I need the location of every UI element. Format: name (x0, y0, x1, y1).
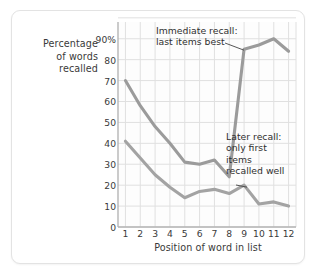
later-recall-annotation: Later recall: only first items recalled … (226, 131, 284, 177)
x-axis-title: Position of word in list (118, 242, 298, 255)
plot-background (118, 22, 296, 227)
recall-curve-chart: Percentageof wordsrecalled 0102030405060… (0, 0, 318, 276)
immediate-recall-annotation: Immediate recall: last items best (156, 25, 238, 48)
plot-background-rect (118, 22, 296, 227)
